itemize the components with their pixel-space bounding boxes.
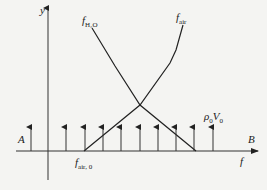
flow-label-rho-v: ρ0V0 <box>204 111 223 125</box>
flow-arrows <box>31 127 213 151</box>
curve-f-h2o <box>92 28 196 151</box>
f-air-label: fair <box>176 12 186 26</box>
line-label-a: A <box>18 134 25 145</box>
y-axis-label: y <box>40 5 45 16</box>
diagram-canvas <box>0 0 267 190</box>
line-label-b: B <box>248 134 255 145</box>
f-h2o-label: fH₂O <box>82 15 98 29</box>
curve-f-air <box>84 25 183 151</box>
x-axis-label: f <box>240 156 243 167</box>
f-air-0-label: fair, 0 <box>75 157 92 171</box>
